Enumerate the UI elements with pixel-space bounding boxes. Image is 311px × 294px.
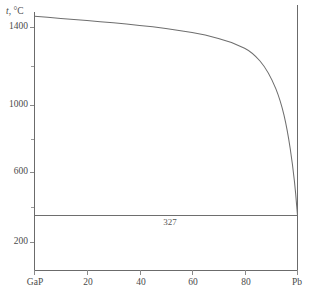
y-axis-title-unit: °C [13, 6, 23, 16]
x-tick-label-20: 20 [72, 278, 104, 288]
diagram-canvas [0, 0, 311, 294]
y-axis-major-ticks [30, 28, 34, 243]
phase-diagram-figure: t, °C 1400 1000 600 200 GaP 20 40 60 80 … [0, 0, 311, 294]
x-tick-label-40: 40 [125, 278, 157, 288]
y-axis-minor-ticks [31, 67, 34, 208]
y-tick-label-1400: 1400 [0, 22, 28, 32]
liquidus-curve [35, 16, 298, 215]
eutectic-temperature-label: 327 [153, 217, 187, 227]
x-tick-label-60: 60 [177, 278, 209, 288]
x-tick-label-gap: GaP [18, 278, 52, 288]
x-tick-label-80: 80 [230, 278, 262, 288]
y-tick-label-1000: 1000 [0, 100, 28, 110]
y-tick-label-200: 200 [0, 237, 28, 247]
y-axis-title: t, °C [6, 6, 24, 16]
x-tick-label-pb: Pb [283, 278, 311, 288]
y-tick-label-600: 600 [0, 167, 28, 177]
